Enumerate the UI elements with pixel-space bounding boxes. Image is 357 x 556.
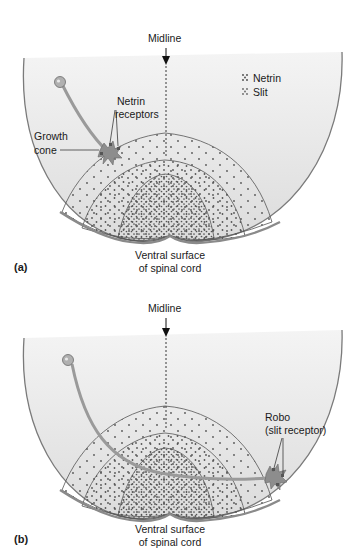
panel-label-a: (a) — [14, 261, 27, 273]
panel-b: Midline Robo (slit receptor) Ventral sur… — [0, 278, 357, 556]
ventral-surface-label-line1: Ventral surface — [120, 523, 220, 535]
robo-label-line1: Robo — [265, 411, 290, 423]
cell-body — [55, 77, 66, 88]
netrin-receptors-label-line2: receptors — [115, 108, 159, 120]
midline-label: Midline — [148, 302, 181, 314]
cell-body — [63, 355, 74, 366]
legend-netrin-label: Netrin — [253, 72, 281, 84]
ventral-surface-label-line2: of spinal cord — [120, 536, 220, 548]
robo-label-line2: (slit receptor) — [265, 424, 326, 436]
panel-a: Midline Netrin Slit Netrin receptors Gro… — [0, 0, 357, 278]
growth-cone-label-line1: Growth — [34, 130, 68, 142]
ventral-surface-label-line1: Ventral surface — [120, 249, 220, 261]
ventral-surface-label-line2: of spinal cord — [120, 262, 220, 274]
legend-slit-label: Slit — [253, 86, 268, 98]
spinal-cord-diagram-b — [0, 278, 357, 556]
netrin-receptors-label-line1: Netrin — [117, 95, 145, 107]
midline-label: Midline — [148, 32, 181, 44]
growth-cone-label-line2: cone — [34, 144, 57, 156]
panel-label-b: (b) — [14, 533, 28, 545]
